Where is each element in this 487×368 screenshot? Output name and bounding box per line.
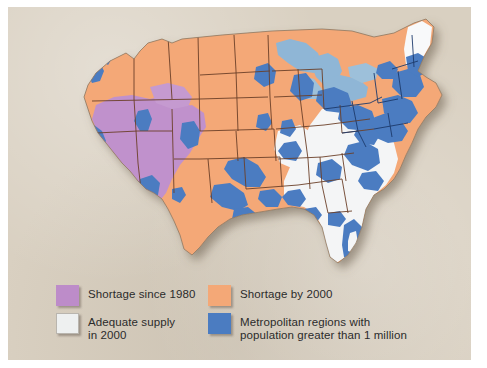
legend-label-shortage-since-1980: Shortage since 1980 bbox=[88, 285, 195, 301]
legend-label-adequate-supply: Adequate supply in 2000 bbox=[88, 313, 175, 341]
legend-item-shortage-since-1980[interactable]: Shortage since 1980 bbox=[56, 285, 195, 306]
legend-swatch-white bbox=[56, 313, 79, 334]
legend-swatch-purple bbox=[56, 285, 79, 306]
legend-item-adequate-supply[interactable]: Adequate supply in 2000 bbox=[56, 313, 195, 341]
legend-item-shortage-by-2000[interactable]: Shortage by 2000 bbox=[208, 285, 407, 306]
map-legend: Shortage since 1980 Adequate supply in 2… bbox=[56, 285, 456, 355]
map-figure: Shortage since 1980 Adequate supply in 2… bbox=[0, 0, 487, 368]
legend-column-right: Shortage by 2000 Metropolitan regions wi… bbox=[208, 285, 407, 348]
legend-item-metropolitan-regions[interactable]: Metropolitan regions with population gre… bbox=[208, 313, 407, 341]
paper-panel: Shortage since 1980 Adequate supply in 2… bbox=[8, 7, 471, 360]
legend-column-left: Shortage since 1980 Adequate supply in 2… bbox=[56, 285, 195, 348]
us-map-svg bbox=[22, 13, 458, 281]
legend-label-shortage-by-2000: Shortage by 2000 bbox=[240, 285, 332, 301]
legend-swatch-orange bbox=[208, 285, 231, 306]
legend-label-metropolitan-regions: Metropolitan regions with population gre… bbox=[240, 313, 407, 341]
map-fills bbox=[22, 13, 458, 281]
legend-swatch-blue bbox=[208, 313, 231, 334]
